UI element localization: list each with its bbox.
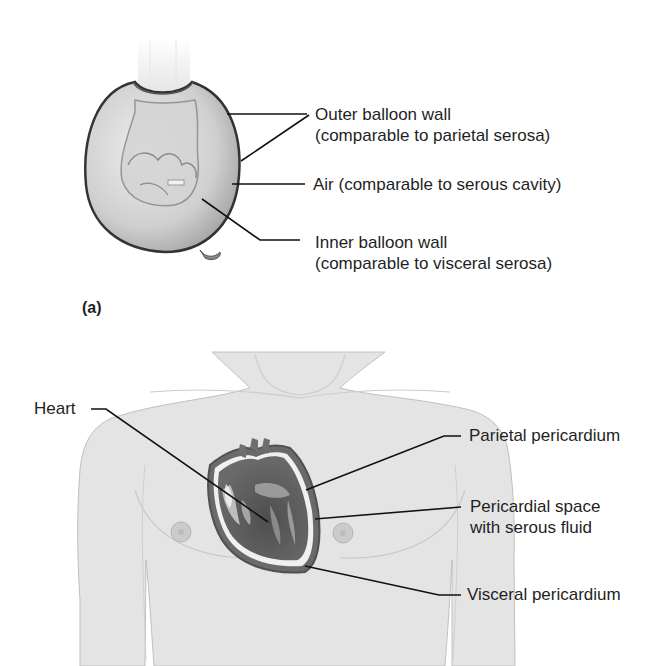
balloon-illustration [85,38,239,260]
label-visceral-pericardium: Visceral pericardium [467,584,621,605]
label-outer-balloon-wall: Outer balloon wall (comparable to pariet… [315,104,550,146]
label-parietal-pericardium: Parietal pericardium [469,425,620,446]
panel-a-label: (a) [82,299,102,317]
label-heart: Heart [34,398,76,419]
diagram-artwork [0,0,671,666]
label-air: Air (comparable to serous cavity) [313,174,561,195]
label-pericardial-space: Pericardial space with serous fluid [470,496,600,538]
label-inner-balloon-wall: Inner balloon wall (comparable to viscer… [315,232,552,274]
